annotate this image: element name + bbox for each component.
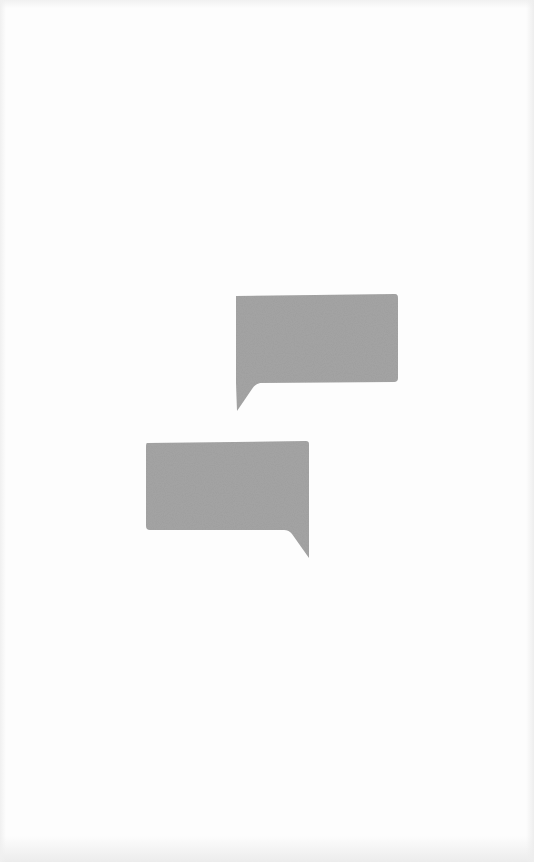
speech-bubbles-illustration — [0, 0, 534, 862]
page — [0, 0, 534, 862]
speech-bubble-lower-left-icon — [146, 441, 309, 558]
speech-bubble-upper-right-icon — [236, 294, 398, 411]
